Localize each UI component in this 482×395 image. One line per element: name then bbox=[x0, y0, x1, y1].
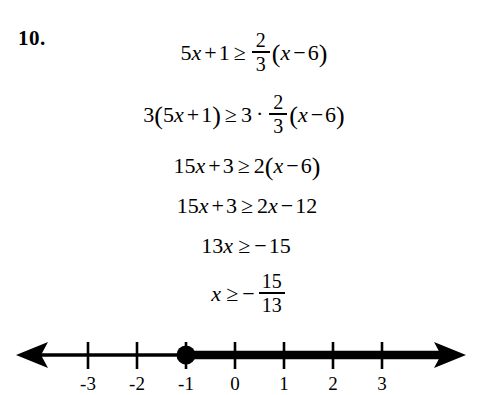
step3-lhs-coef: 15 bbox=[174, 153, 196, 179]
step1-rhs-op: − bbox=[291, 40, 307, 66]
step2-relation: ≥ bbox=[221, 102, 241, 128]
tick-label-0: 0 bbox=[230, 373, 240, 394]
step3-relation: ≥ bbox=[234, 153, 254, 179]
step2-rhs-multiplier: 3 bbox=[241, 102, 252, 128]
step3-rhs-const: 6 bbox=[301, 153, 312, 179]
step4-lhs-var: x bbox=[199, 193, 210, 219]
closed-circle-point bbox=[177, 346, 196, 365]
step2-paren-close: ) bbox=[336, 104, 345, 127]
number-line-graph: -3 -2 -1 0 1 2 3 bbox=[0, 330, 482, 395]
step6-relation: ≥ bbox=[222, 281, 242, 307]
tick-label--1: -1 bbox=[178, 373, 194, 394]
step1-rhs-const: 6 bbox=[308, 40, 319, 66]
step3-rhs-var: x bbox=[274, 153, 285, 179]
step2-rhs-op: − bbox=[309, 102, 325, 128]
step1-rhs-var: x bbox=[281, 40, 292, 66]
step2-fraction: 2 3 bbox=[269, 92, 287, 136]
step2-lhs-paren-open: ( bbox=[154, 104, 163, 127]
step6-fraction: 15 13 bbox=[259, 271, 285, 315]
step3-paren-open: ( bbox=[265, 155, 274, 178]
step1-lhs-op: + bbox=[202, 40, 218, 66]
step1-lhs-coef: 5 bbox=[181, 40, 192, 66]
step3-paren-close: ) bbox=[312, 155, 321, 178]
solution-step-2: 3(5x + 1) ≥ 3 · 2 3 (x − 6) bbox=[0, 84, 482, 146]
step2-lhs-paren-close: ) bbox=[212, 104, 221, 127]
step3-lhs-op: + bbox=[206, 153, 222, 179]
step4-relation: ≥ bbox=[237, 193, 257, 219]
tick-label--3: -3 bbox=[80, 373, 96, 394]
step6-fraction-denominator: 13 bbox=[259, 295, 285, 315]
step2-fraction-denominator: 3 bbox=[270, 116, 286, 136]
step5-lhs-coef: 13 bbox=[201, 233, 223, 259]
step1-paren-open: ( bbox=[272, 42, 281, 65]
step1-fraction: 2 3 bbox=[252, 30, 270, 74]
tick-label-1: 1 bbox=[279, 373, 289, 394]
step2-rhs-var: x bbox=[298, 102, 309, 128]
solution-step-4: 15x + 3 ≥ 2x − 12 bbox=[0, 186, 482, 226]
tick-label-2: 2 bbox=[328, 373, 338, 394]
step3-rhs-op: − bbox=[284, 153, 300, 179]
step2-lhs-coef: 5 bbox=[163, 102, 174, 128]
step2-lhs-var: x bbox=[174, 102, 185, 128]
solution-step-3: 15x + 3 ≥ 2(x − 6) bbox=[0, 146, 482, 186]
step4-rhs-var: x bbox=[268, 193, 279, 219]
solution-step-6: x ≥ − 15 13 bbox=[0, 266, 482, 322]
step6-rhs-sign: − bbox=[242, 281, 256, 307]
step2-rhs-const: 6 bbox=[325, 102, 336, 128]
step3-lhs-const: 3 bbox=[223, 153, 234, 179]
step4-rhs-op: − bbox=[279, 193, 295, 219]
step1-lhs-const: 1 bbox=[219, 40, 230, 66]
step1-relation: ≥ bbox=[230, 40, 250, 66]
step4-lhs-coef: 15 bbox=[177, 193, 199, 219]
solution-steps: 5x + 1 ≥ 2 3 (x − 6) 3(5x + 1) ≥ 3 · 2 3 bbox=[0, 22, 482, 322]
worksheet-page: 10. 5x + 1 ≥ 2 3 (x − 6) 3(5x + 1) ≥ 3 · bbox=[0, 0, 482, 395]
step4-lhs-const: 3 bbox=[226, 193, 237, 219]
step5-rhs-sign: − bbox=[254, 233, 268, 259]
step2-lhs-op: + bbox=[185, 102, 201, 128]
step3-lhs-var: x bbox=[196, 153, 207, 179]
step4-lhs-op: + bbox=[210, 193, 226, 219]
step2-lhs-multiplier: 3 bbox=[143, 102, 154, 128]
tick-label-3: 3 bbox=[377, 373, 387, 394]
step5-lhs-var: x bbox=[223, 233, 234, 259]
step5-rhs-const: 15 bbox=[269, 233, 291, 259]
step1-fraction-numerator: 2 bbox=[253, 30, 269, 50]
step2-lhs-const: 1 bbox=[201, 102, 212, 128]
step6-lhs-var: x bbox=[211, 281, 222, 307]
step2-fraction-numerator: 2 bbox=[270, 92, 286, 112]
solution-step-1: 5x + 1 ≥ 2 3 (x − 6) bbox=[0, 22, 482, 84]
step1-lhs-var: x bbox=[192, 40, 203, 66]
step1-paren-close: ) bbox=[319, 42, 328, 65]
step5-relation: ≥ bbox=[234, 233, 254, 259]
step1-fraction-denominator: 3 bbox=[253, 54, 269, 74]
step2-paren-open: ( bbox=[289, 104, 298, 127]
step4-rhs-const: 12 bbox=[295, 193, 317, 219]
solution-step-5: 13x ≥ −15 bbox=[0, 226, 482, 266]
step6-fraction-numerator: 15 bbox=[259, 271, 285, 291]
number-line-svg: -3 -2 -1 0 1 2 3 bbox=[0, 330, 482, 395]
step3-rhs-multiplier: 2 bbox=[254, 153, 265, 179]
step2-dot-operator: · bbox=[252, 101, 267, 127]
step4-rhs-coef: 2 bbox=[257, 193, 268, 219]
tick-label--2: -2 bbox=[129, 373, 145, 394]
